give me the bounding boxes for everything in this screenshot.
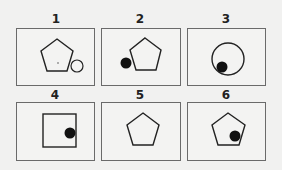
panel-1 [16, 28, 95, 86]
panel-label-6: 6 [216, 89, 236, 101]
pentagon-with-open-circle-icon [17, 29, 96, 87]
panel-5 [101, 102, 181, 161]
panel-label-5: 5 [130, 89, 150, 101]
panel-3 [187, 28, 266, 86]
square-with-dot-right-icon [17, 103, 96, 162]
panel-label-4: 4 [45, 89, 65, 101]
pentagon-with-dot-left-icon [102, 29, 182, 87]
circle-with-dot-inside-icon [188, 29, 267, 87]
panel-label-2: 2 [130, 13, 150, 25]
panel-label-1: 1 [46, 13, 66, 25]
panel-label-3: 3 [216, 13, 236, 25]
panel-4 [16, 102, 95, 161]
pentagon-with-dot-inside-icon [188, 103, 267, 162]
panel-2 [101, 28, 181, 86]
pentagon-icon [102, 103, 182, 162]
panel-6 [187, 102, 266, 161]
